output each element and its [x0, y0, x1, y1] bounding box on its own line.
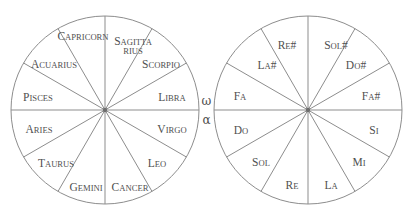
- wheel-geometry: [0, 0, 416, 219]
- wheel-hub: [103, 108, 107, 112]
- omega-symbol: ω: [202, 94, 212, 108]
- zodiac-wheel-geometry: [11, 16, 199, 204]
- solfege-wheel-geometry: [214, 16, 402, 204]
- alpha-symbol: α: [202, 113, 210, 127]
- dual-wheel-figure: SAGITTARIUSCAPRICORNACUARIUSPISCESARIEST…: [0, 0, 416, 219]
- wheel-hub: [306, 108, 310, 112]
